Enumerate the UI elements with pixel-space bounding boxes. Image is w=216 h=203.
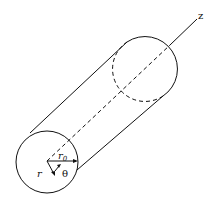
top-generator-line	[30, 42, 127, 133]
r-coordinate-label: r	[37, 168, 43, 179]
radius-label-sub: 0	[63, 155, 68, 163]
radius-arrowhead	[73, 159, 78, 163]
cylinder-diagram: z r0 r θ	[0, 0, 216, 203]
theta-label: θ	[62, 168, 68, 179]
axis-label-z: z	[198, 10, 203, 21]
axis-visible	[170, 19, 197, 45]
bottom-generator-line	[77, 96, 163, 170]
r-arrowhead	[51, 171, 55, 176]
axis-hidden	[47, 45, 170, 161]
